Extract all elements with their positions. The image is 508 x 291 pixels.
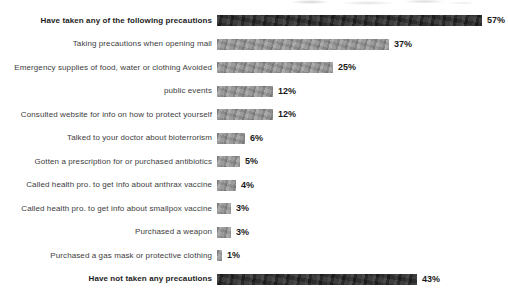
bar [217, 133, 245, 144]
category-label: Consulted website for info on how to pro… [0, 111, 217, 119]
value-label: 4% [241, 181, 254, 190]
bar-row: Talked to your doctor about bioterrorism… [0, 127, 508, 151]
bar [217, 156, 240, 167]
category-label: Purchased a weapon [0, 228, 217, 236]
value-label: 3% [236, 204, 249, 213]
scan-smudge-artifact [282, 0, 472, 5]
bar-row: public events 12% [0, 80, 508, 104]
category-label: Gotten a prescription for or purchased a… [0, 158, 217, 166]
category-label: Taking precautions when opening mail [0, 40, 217, 48]
value-label: 3% [236, 228, 249, 237]
bar-row: Purchased a weapon 3% [0, 221, 508, 245]
value-label: 5% [245, 157, 258, 166]
bar-row: Gotten a prescription for or purchased a… [0, 150, 508, 174]
category-label: Have taken any of the following precauti… [0, 17, 217, 25]
bar [217, 250, 222, 261]
bar-row: Called health pro. to get info about sma… [0, 197, 508, 221]
category-label: Emergency supplies of food, water or clo… [0, 64, 217, 72]
category-label: Called health pro. to get info about sma… [0, 205, 217, 213]
category-label: public events [0, 87, 217, 95]
bar-row: Consulted website for info on how to pro… [0, 103, 508, 127]
bar-row: Have taken any of the following precauti… [0, 9, 508, 33]
category-label: Called health pro. to get info about ant… [0, 181, 217, 189]
bar [217, 15, 482, 26]
value-label: 37% [394, 40, 412, 49]
bar [217, 39, 389, 50]
bar-row: Purchased a gas mask or protective cloth… [0, 244, 508, 268]
bar [217, 180, 236, 191]
value-label: 1% [227, 251, 240, 260]
precautions-bar-chart: Have taken any of the following precauti… [0, 0, 508, 291]
bar [217, 227, 231, 238]
bar-row: Have not taken any precautions 43% [0, 268, 508, 291]
value-label: 25% [338, 63, 356, 72]
bar [217, 86, 273, 97]
bar [217, 274, 417, 285]
bar [217, 203, 231, 214]
value-label: 57% [487, 16, 505, 25]
value-label: 12% [278, 110, 296, 119]
bar-chart: Have taken any of the following precauti… [0, 9, 508, 291]
bar-row: Called health pro. to get info about ant… [0, 174, 508, 198]
category-label: Have not taken any precautions [0, 275, 217, 283]
bar-row: Emergency supplies of food, water or clo… [0, 56, 508, 80]
value-label: 6% [250, 134, 263, 143]
value-label: 43% [422, 275, 440, 284]
category-label: Talked to your doctor about bioterrorism [0, 134, 217, 142]
category-label: Purchased a gas mask or protective cloth… [0, 252, 217, 260]
bar [217, 62, 333, 73]
value-label: 12% [278, 87, 296, 96]
bar-row: Taking precautions when opening mail 37% [0, 33, 508, 57]
bar [217, 109, 273, 120]
